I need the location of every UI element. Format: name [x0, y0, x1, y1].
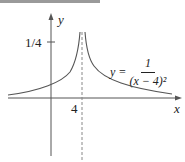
left-branch-curve	[8, 32, 80, 95]
y-tick-label: 1/4	[25, 36, 42, 49]
equation-annotation: y = 1 (x − 4)²	[110, 56, 166, 89]
equation-numerator: 1	[141, 56, 155, 73]
y-axis-label: y	[58, 13, 64, 26]
x-axis-arrow-icon	[175, 96, 182, 101]
x-tick-label: 4	[71, 102, 78, 115]
equation-denominator: (x − 4)²	[129, 73, 166, 89]
y-axis-arrow-icon	[49, 13, 54, 20]
equation-lhs: y =	[110, 65, 126, 80]
equation-fraction: 1 (x − 4)²	[129, 56, 166, 89]
x-axis-label: x	[174, 102, 180, 115]
